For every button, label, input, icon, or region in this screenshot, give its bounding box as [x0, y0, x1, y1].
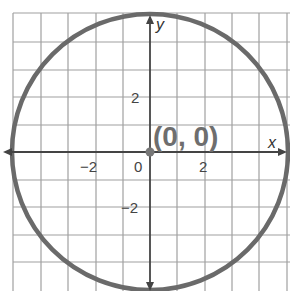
y-axis-label: y	[155, 16, 165, 33]
x-axis	[3, 148, 287, 156]
x-axis-label: x	[267, 134, 277, 151]
x-tick-neg2: −2	[80, 158, 97, 175]
y-tick-neg2: −2	[121, 199, 138, 216]
coordinate-graph: y x −2 0 2 2 −2 (0, 0)	[0, 0, 290, 291]
x-tick-0: 0	[134, 158, 142, 175]
center-point-label: (0, 0)	[153, 121, 218, 152]
y-tick-2: 2	[131, 89, 139, 106]
x-tick-2: 2	[199, 158, 207, 175]
